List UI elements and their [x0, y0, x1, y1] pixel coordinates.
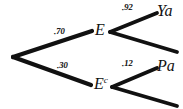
edge-e-to-ya — [110, 13, 157, 32]
edge-ec-to-pa — [112, 68, 157, 87]
branch-weight-root-to-ec: .30 — [57, 61, 68, 70]
edge-e-to-lower-outcome — [110, 32, 177, 52]
edge-root-to-ec — [13, 57, 91, 85]
edge-ec-to-lower-outcome — [112, 87, 177, 106]
probability-tree-diagram: E Ec Ya Pa .70 .30 .92 .12 — [0, 0, 183, 109]
node-label-event-e: E — [95, 22, 105, 38]
branch-weight-ec-to-pa: .12 — [122, 59, 133, 68]
node-label-outcome-pa: Pa — [157, 58, 175, 74]
edge-root-to-e — [13, 31, 92, 57]
branch-weight-root-to-e: .70 — [54, 27, 65, 36]
node-label-event-e-complement: Ec — [94, 76, 108, 92]
tree-edges-canvas — [0, 0, 183, 109]
node-label-outcome-ya: Ya — [157, 3, 172, 19]
branch-weight-e-to-ya: .92 — [122, 3, 133, 12]
node-label-ec-base: E — [94, 75, 104, 92]
node-label-ec-superscript: c — [104, 75, 108, 85]
